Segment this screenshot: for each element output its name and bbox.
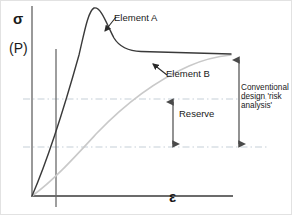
y-axis-sub-label: (P) — [9, 41, 28, 57]
conventional-design-annotation-label: Conventional design 'risk analysis' — [241, 83, 289, 111]
element-b-leader-line — [153, 64, 167, 75]
y-axis-label: σ — [13, 11, 23, 28]
element-b-annotation-label: Element B — [166, 69, 210, 80]
element-a-annotation-label: Element A — [114, 13, 157, 24]
x-axis-label: ε — [169, 189, 176, 206]
reserve-annotation-label: Reserve — [179, 109, 214, 120]
stress-strain-figure: σ (P) ε Element A Element B Reserve Conv… — [0, 0, 292, 215]
